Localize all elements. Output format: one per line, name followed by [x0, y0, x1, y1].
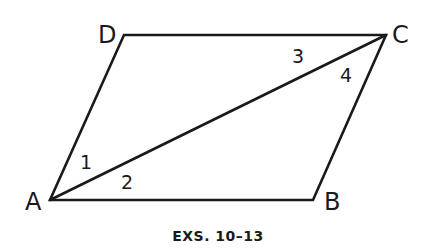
vertex-label-d: D	[98, 21, 116, 49]
angle-label-2: 2	[121, 171, 133, 193]
angle-label-1: 1	[80, 151, 92, 173]
figure-caption: EXS. 10–13	[172, 228, 264, 244]
vertex-label-b: B	[324, 188, 340, 216]
parallelogram-diagram: A B C D 1 2 3 4 EXS. 10–13	[0, 0, 437, 249]
vertex-label-a: A	[25, 188, 42, 216]
angle-label-3: 3	[292, 45, 304, 67]
vertex-label-c: C	[392, 21, 409, 49]
angle-label-4: 4	[340, 64, 352, 86]
diagonal-ac	[50, 35, 386, 200]
